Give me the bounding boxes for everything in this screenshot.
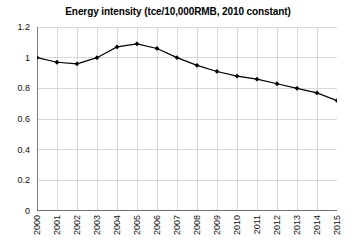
x-axis-tick-label: 2009 — [212, 215, 222, 235]
x-axis-tick-label: 2002 — [72, 215, 82, 235]
x-axis-tick-label: 2006 — [152, 215, 162, 235]
data-point-marker — [275, 81, 280, 86]
y-axis-tick-label: 0.4 — [17, 145, 30, 155]
data-point-marker — [75, 61, 80, 66]
data-point-marker — [215, 69, 220, 74]
y-axis-tick-label: 1 — [25, 53, 30, 63]
data-point-marker — [175, 55, 180, 60]
x-axis-tick-label: 2000 — [32, 215, 42, 235]
data-point-markers — [37, 41, 337, 103]
y-axis-tick-label: 0.8 — [17, 83, 30, 93]
data-point-marker — [37, 55, 39, 60]
chart-svg — [37, 27, 337, 211]
chart-title: Energy intensity (tce/10,000RMB, 2010 co… — [0, 6, 356, 17]
x-axis-tick-label: 2005 — [132, 215, 142, 235]
data-point-marker — [95, 55, 100, 60]
y-axis-tick-label: 1.2 — [17, 22, 30, 32]
x-axis-tick-label: 2012 — [272, 215, 282, 235]
plot-area — [37, 27, 337, 211]
y-axis-tick-label: 0.6 — [17, 114, 30, 124]
data-point-marker — [295, 86, 300, 91]
data-point-marker — [135, 41, 140, 46]
data-point-marker — [335, 98, 337, 103]
y-axis-tick-label: 0 — [25, 206, 30, 216]
x-axis-tick-label: 2010 — [232, 215, 242, 235]
data-point-marker — [115, 45, 120, 50]
x-axis-tick-label: 2014 — [312, 215, 322, 235]
data-point-marker — [55, 60, 60, 65]
data-point-marker — [255, 77, 260, 82]
data-point-marker — [195, 63, 200, 68]
data-series-line — [37, 44, 337, 101]
y-axis-labels: 00.20.40.60.811.2 — [0, 0, 34, 252]
chart-container: Energy intensity (tce/10,000RMB, 2010 co… — [0, 0, 356, 252]
data-point-marker — [315, 91, 320, 96]
x-axis-tick-label: 2007 — [172, 215, 182, 235]
y-axis-tick-label: 0.2 — [17, 175, 30, 185]
gridlines — [37, 27, 337, 211]
x-axis-tick-label: 2004 — [112, 215, 122, 235]
x-axis-tick-label: 2003 — [92, 215, 102, 235]
x-axis-tick-label: 2011 — [252, 215, 262, 234]
x-axis-tick-label: 2008 — [192, 215, 202, 235]
x-axis-tick-label: 2013 — [292, 215, 302, 235]
x-axis-tick-label: 2001 — [52, 215, 62, 235]
data-point-marker — [155, 46, 160, 51]
data-point-marker — [235, 74, 240, 79]
x-axis-tick-label: 2015 — [332, 215, 342, 235]
